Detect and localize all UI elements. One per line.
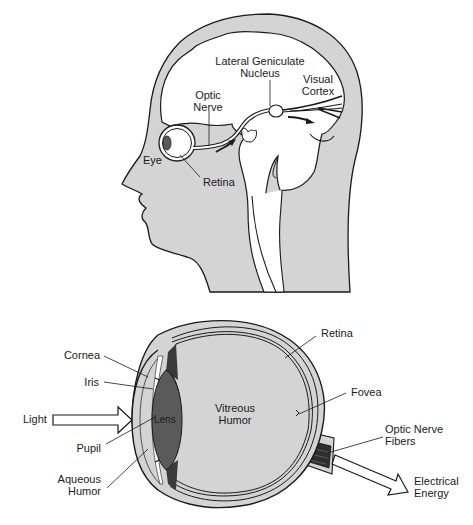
- label-lgn-line2: Nucleus: [240, 67, 280, 79]
- label-electrical-line1: Electrical: [414, 475, 459, 487]
- label-aqueous-line2: Humor: [68, 485, 101, 497]
- head-eye: [159, 125, 195, 161]
- label-optic-nerve-line1: Optic: [195, 89, 221, 101]
- electrical-energy-arrow: [332, 455, 408, 495]
- label-aqueous-line1: Aqueous: [58, 473, 102, 485]
- label-pupil: Pupil: [77, 442, 101, 454]
- label-lgn-line1: Lateral Geniculate: [215, 55, 304, 67]
- label-visual-cortex-line1: Visual: [303, 73, 333, 85]
- label-optic-nerve-fibers-line2: Fibers: [385, 435, 416, 447]
- label-light: Light: [23, 413, 47, 425]
- label-retina-head: Retina: [203, 176, 236, 188]
- label-electrical-line2: Energy: [414, 487, 449, 499]
- label-retina-eye: Retina: [321, 327, 354, 339]
- label-iris: Iris: [84, 376, 99, 388]
- head-diagram: Lateral Geniculate Nucleus Visual Cortex…: [122, 14, 362, 292]
- label-vitreous-line2: Humor: [218, 414, 251, 426]
- label-optic-nerve-fibers-line1: Optic Nerve: [385, 423, 443, 435]
- label-cornea: Cornea: [64, 349, 101, 361]
- label-vitreous-line1: Vitreous: [215, 402, 256, 414]
- label-fovea: Fovea: [351, 386, 382, 398]
- visual-pathway-figure: Lateral Geniculate Nucleus Visual Cortex…: [0, 0, 473, 525]
- eye-cross-section: Retina Cornea Iris Light Lens Vitreous H…: [23, 321, 459, 508]
- optic-nerve-stalk: [326, 430, 334, 434]
- label-visual-cortex-line2: Cortex: [302, 85, 335, 97]
- light-arrow: [53, 407, 132, 433]
- label-optic-nerve-line2: Nerve: [193, 101, 222, 113]
- label-lens: Lens: [154, 414, 176, 425]
- label-eye: Eye: [143, 154, 162, 166]
- lgn-node: [269, 105, 283, 117]
